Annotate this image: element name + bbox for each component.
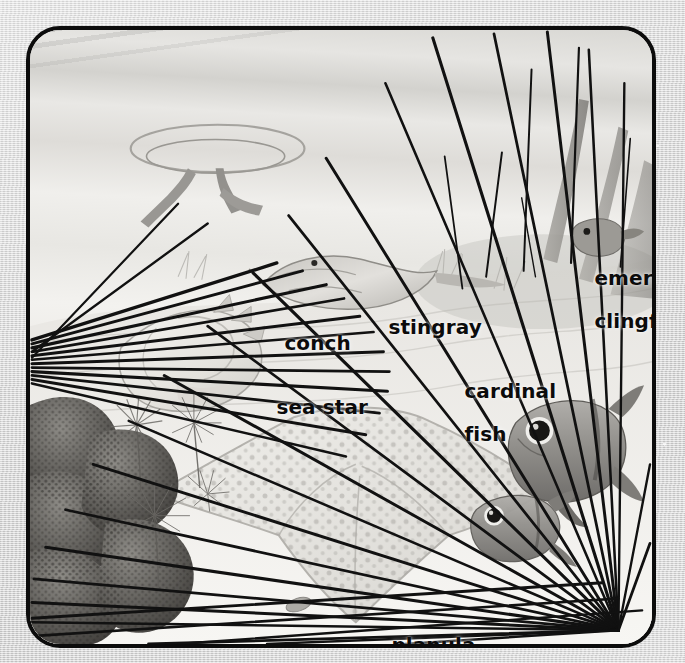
surface-jellyfish	[131, 125, 305, 228]
reef-scene: emerald clingfish stingray conch cardina…	[30, 30, 652, 644]
label-emerald-clingfish-line1: emerald	[594, 266, 656, 290]
label-sea-star: sea star	[234, 376, 368, 440]
label-cardinal-fish: cardinal fish	[422, 360, 556, 466]
label-cardinal-fish-line1: cardinal	[464, 379, 556, 403]
label-planula: planula	[349, 614, 476, 648]
label-emerald-clingfish-line2: clingfish	[594, 309, 656, 333]
illustration-frame: emerald clingfish stingray conch cardina…	[26, 26, 656, 648]
label-stingray: stingray	[346, 296, 482, 360]
label-conch-text: conch	[284, 331, 350, 355]
label-cardinal-fish-line2: fish	[464, 422, 506, 446]
label-planula-text: planula	[391, 633, 475, 648]
label-stingray-text: stingray	[388, 315, 481, 339]
label-emerald-clingfish: emerald clingfish	[552, 247, 656, 353]
label-conch: conch	[242, 312, 351, 376]
label-sea-star-text: sea star	[276, 395, 368, 419]
